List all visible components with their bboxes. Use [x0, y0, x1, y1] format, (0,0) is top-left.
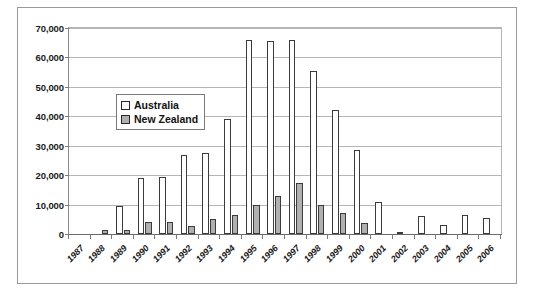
x-tick-mark	[306, 234, 307, 239]
bar-australia-2003	[418, 216, 425, 234]
x-tick-mark	[435, 234, 436, 239]
x-tick-mark	[327, 234, 328, 239]
legend-item-australia: Australia	[121, 98, 198, 112]
bar-new-zealand-1995	[253, 205, 260, 234]
x-tick-mark	[198, 234, 199, 239]
x-tick-mark	[370, 234, 371, 239]
bar-new-zealand-1999	[340, 213, 347, 234]
x-tick-mark	[90, 234, 91, 239]
bar-new-zealand-1990	[145, 222, 152, 234]
legend-item-new-zealand: New Zealand	[121, 112, 198, 126]
gridline-50000	[69, 87, 501, 88]
bar-australia-1999	[332, 110, 339, 234]
x-tick-mark	[111, 234, 112, 239]
bar-australia-1998	[310, 71, 317, 234]
y-axis-label: 20,000	[36, 170, 64, 181]
bar-australia-1994	[224, 119, 231, 234]
y-axis-label: 30,000	[36, 140, 64, 151]
bar-australia-1993	[202, 153, 209, 234]
x-tick-mark	[154, 234, 155, 239]
gridline-30000	[69, 146, 501, 147]
x-tick-mark	[500, 234, 501, 239]
bar-new-zealand-1996	[275, 196, 282, 234]
legend-label-new-zealand: New Zealand	[134, 113, 198, 125]
bar-australia-1995	[246, 40, 253, 234]
legend-label-australia: Australia	[134, 99, 179, 111]
x-tick-mark	[176, 234, 177, 239]
gridline-60000	[69, 57, 501, 58]
bar-australia-2004	[440, 225, 447, 234]
y-tick-mark-10000	[65, 205, 69, 206]
y-tick-mark-60000	[65, 57, 69, 58]
bar-new-zealand-2000	[361, 223, 368, 234]
y-tick-mark-40000	[65, 116, 69, 117]
y-tick-mark-50000	[65, 87, 69, 88]
y-tick-mark-30000	[65, 146, 69, 147]
x-tick-mark	[68, 234, 69, 239]
x-tick-mark	[392, 234, 393, 239]
bar-new-zealand-1997	[296, 183, 303, 235]
bar-australia-1991	[159, 177, 166, 234]
y-tick-mark-20000	[65, 175, 69, 176]
x-tick-mark	[478, 234, 479, 239]
gridline-20000	[69, 175, 501, 176]
gridline-70000	[69, 28, 501, 29]
x-tick-mark	[133, 234, 134, 239]
bar-new-zealand-1994	[232, 215, 239, 234]
bar-australia-1997	[289, 40, 296, 234]
bar-new-zealand-1998	[318, 205, 325, 234]
chart-frame: 010,00020,00030,00040,00050,00060,00070,…	[17, 7, 517, 284]
plot-area: 010,00020,00030,00040,00050,00060,00070,…	[68, 27, 502, 234]
x-tick-mark	[414, 234, 415, 239]
bar-australia-1990	[138, 178, 145, 234]
bar-australia-2006	[483, 218, 490, 234]
x-tick-mark	[349, 234, 350, 239]
y-axis-label: 60,000	[36, 52, 64, 63]
y-axis-label: 10,000	[36, 199, 64, 210]
y-axis-label: 70,000	[36, 23, 64, 34]
bar-australia-2001	[375, 202, 382, 234]
bar-australia-2000	[354, 150, 361, 234]
x-tick-mark	[241, 234, 242, 239]
bar-new-zealand-1991	[167, 222, 174, 234]
bar-new-zealand-1992	[188, 226, 195, 234]
gridline-10000	[69, 205, 501, 206]
x-axis: 1987198819891990199119921993199419951996…	[68, 234, 502, 235]
x-tick-mark	[457, 234, 458, 239]
chart-legend: Australia New Zealand	[116, 94, 205, 130]
x-tick-mark	[284, 234, 285, 239]
bar-australia-1992	[181, 155, 188, 234]
y-axis-label: 50,000	[36, 81, 64, 92]
bar-australia-1996	[267, 41, 274, 234]
bar-new-zealand-1993	[210, 219, 217, 234]
x-tick-mark	[219, 234, 220, 239]
legend-swatch-australia	[121, 101, 130, 110]
x-tick-mark	[262, 234, 263, 239]
bar-australia-2005	[462, 215, 469, 234]
legend-swatch-new-zealand	[121, 115, 130, 124]
y-axis-label: 40,000	[36, 111, 64, 122]
y-axis-label: 0	[59, 229, 64, 240]
y-tick-mark-70000	[65, 28, 69, 29]
bar-australia-1989	[116, 206, 123, 234]
